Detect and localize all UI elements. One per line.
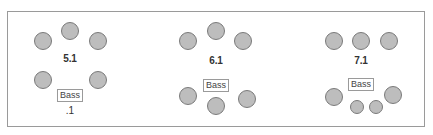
speaker-center-icon (61, 22, 79, 40)
speaker-surround-right-icon (384, 86, 402, 104)
speaker-center-icon (207, 22, 225, 40)
speaker-front-left-icon (179, 32, 197, 50)
speaker-front-right-icon (234, 32, 252, 50)
speaker-surround-left-icon (179, 87, 197, 105)
speaker-front-left-icon (34, 32, 52, 50)
speaker-center-icon (352, 32, 370, 50)
speaker-front-left-icon (325, 32, 343, 50)
config-label: 5.1 (63, 54, 76, 64)
bass-subwoofer-box: Bass (203, 79, 229, 92)
bass-subwoofer-box: Bass (57, 89, 83, 102)
speaker-surround-right-icon (89, 71, 107, 89)
speaker-front-right-icon (89, 32, 107, 50)
speaker-rear-left-icon (350, 100, 364, 114)
subwoofer-channel-label: .1 (66, 106, 74, 116)
speaker-rear-right-icon (369, 100, 383, 114)
config-label: 6.1 (209, 56, 222, 66)
speaker-surround-left-icon (325, 88, 343, 106)
speaker-surround-left-icon (34, 71, 52, 89)
speaker-rear-center-icon (207, 97, 225, 115)
config-label: 7.1 (354, 56, 367, 66)
speaker-front-right-icon (380, 32, 398, 50)
bass-subwoofer-box: Bass (348, 78, 374, 91)
speaker-surround-right-icon (238, 90, 256, 108)
